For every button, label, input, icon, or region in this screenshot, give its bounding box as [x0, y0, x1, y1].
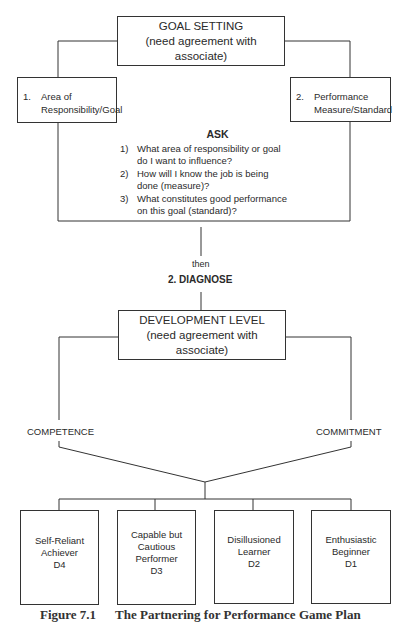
figure-caption: Figure 7.1 The Partnering for Performanc… — [40, 607, 370, 623]
ask-item-number: 1) — [120, 143, 137, 168]
area-number: 1. — [23, 90, 41, 122]
measure-number: 2. — [296, 90, 314, 121]
performance-measure-box: 2. Performance Measure/Standard — [290, 77, 391, 122]
ask-title: ASK — [120, 128, 310, 141]
ask-item-line: done (measure)? — [137, 180, 268, 193]
figure-title: The Partnering for Performance Game Plan — [115, 607, 361, 622]
goal-setting-box: GOAL SETTING (need agreement with associ… — [117, 16, 285, 66]
area-line-2: Responsibility/Goal — [41, 103, 122, 116]
development-subtitle: (need agreement with associate) — [119, 328, 285, 358]
level-code: D4 — [53, 559, 65, 571]
ask-item-number: 3) — [120, 193, 137, 218]
area-of-responsibility-box: 1. Area of Responsibility/Goal — [17, 77, 117, 123]
ask-item-number: 2) — [120, 168, 137, 193]
figure-number: Figure 7.1 — [40, 607, 112, 623]
goal-setting-title: GOAL SETTING — [159, 19, 244, 34]
level-line: Performer — [135, 553, 177, 565]
measure-line-1: Performance — [314, 90, 392, 103]
ask-item-line: How will I know the job is being — [137, 168, 268, 181]
level-line: Beginner — [332, 546, 370, 558]
level-line: Self-Reliant — [35, 535, 84, 547]
level-box-d1: Enthusiastic Beginner D1 — [311, 510, 391, 604]
area-line-1: Area of — [41, 90, 122, 103]
competence-label: COMPETENCE — [27, 426, 94, 437]
ask-item-line: on this goal (standard)? — [137, 205, 287, 218]
ask-item-line: What area of responsibility or goal — [137, 143, 281, 156]
level-line: Enthusiastic — [325, 534, 376, 546]
ask-item-line: What constitutes good performance — [137, 193, 287, 206]
ask-item: 1) What area of responsibility or goal d… — [120, 143, 310, 168]
ask-item-line: do I want to influence? — [137, 155, 281, 168]
level-box-d2: Disillusioned Learner D2 — [214, 510, 294, 604]
development-level-box: DEVELOPMENT LEVEL (need agreement with a… — [118, 310, 286, 360]
level-line: Disillusioned — [227, 534, 280, 546]
level-line: Achiever — [41, 547, 78, 559]
measure-line-2: Measure/Standard — [314, 103, 392, 116]
level-code: D1 — [345, 558, 357, 570]
goal-setting-subtitle: (need agreement with associate) — [118, 34, 284, 64]
level-line: Capable but — [131, 529, 182, 541]
ask-item: 2) How will I know the job is being done… — [120, 168, 310, 193]
level-line: Learner — [238, 546, 271, 558]
level-code: D3 — [150, 565, 162, 577]
level-box-d3: Capable but Cautious Performer D3 — [117, 510, 196, 605]
level-code: D2 — [248, 558, 260, 570]
level-box-d4: Self-Reliant Achiever D4 — [20, 510, 99, 605]
ask-section: ASK 1) What area of responsibility or go… — [120, 128, 310, 218]
commitment-label: COMMITMENT — [316, 426, 381, 437]
ask-item: 3) What constitutes good performance on … — [120, 193, 310, 218]
level-line: Cautious — [138, 541, 176, 553]
development-title: DEVELOPMENT LEVEL — [139, 313, 265, 328]
diagnose-step-label: 2. DIAGNOSE — [168, 274, 232, 285]
then-label: then — [192, 259, 210, 269]
